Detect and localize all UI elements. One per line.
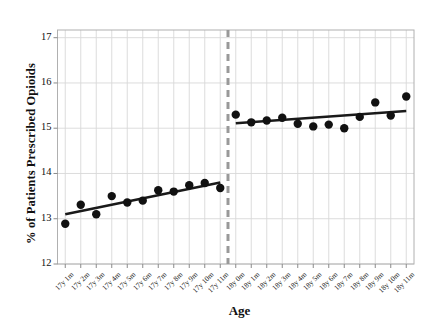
y-tick-label: 13 xyxy=(22,212,52,223)
x-axis-title: Age xyxy=(0,303,439,319)
y-tick-label: 14 xyxy=(22,166,52,177)
y-tick-label: 12 xyxy=(22,257,52,268)
y-axis-title: % of Patients Prescribed Opioids xyxy=(24,39,39,269)
y-tick-label: 15 xyxy=(22,121,52,132)
gridlines xyxy=(58,30,415,264)
y-tick-label: 17 xyxy=(22,31,52,42)
axis-tick-marks xyxy=(54,38,407,268)
chart-figure: % of Patients Prescribed Opioids Age 121… xyxy=(0,0,439,328)
y-tick-label: 16 xyxy=(22,76,52,87)
